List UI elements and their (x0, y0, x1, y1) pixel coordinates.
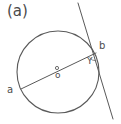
geometry-figure: (a) a b o Y (0, 0, 121, 124)
panel-label: (a) (7, 4, 28, 19)
label-angle-y: Y (87, 57, 93, 66)
label-center-o: o (55, 71, 61, 80)
label-point-b: b (99, 41, 105, 51)
label-point-a: a (7, 85, 13, 95)
